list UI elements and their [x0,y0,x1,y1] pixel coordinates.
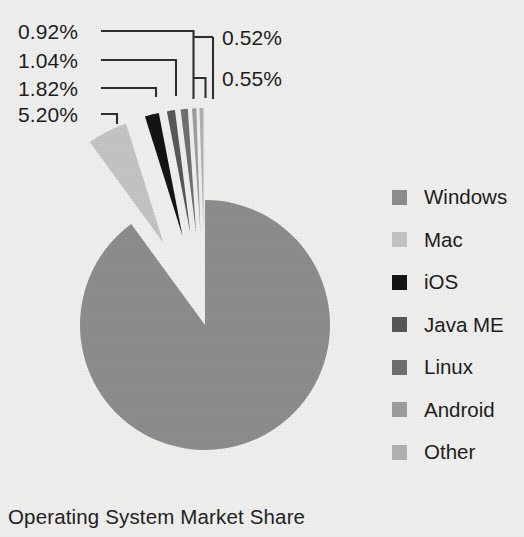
callout-labels-group: 0.92% 1.04% 1.82% 5.20% 0.52% 0.55% [18,20,282,126]
legend-item-java-me[interactable]: Java ME [392,304,520,347]
pie-slice-android[interactable] [192,108,200,233]
callout-label-0-52: 0.52% [222,26,282,49]
legend-swatch-windows [392,190,407,205]
legend-item-android[interactable]: Android [392,389,520,432]
legend-label-java-me: Java ME [424,315,504,336]
callout-label-0-55: 0.55% [222,67,282,90]
legend-swatch-java-me [392,317,407,332]
legend-swatch-linux [392,360,407,375]
legend-label-other: Other [424,442,475,463]
callout-label-0-92: 0.92% [18,20,78,43]
legend-swatch-android [392,402,407,417]
legend-label-ios: iOS [424,272,458,293]
pie-slice-other[interactable] [199,108,203,233]
legend-label-linux: Linux [424,357,473,378]
leader-line-0-55 [193,78,206,98]
legend-label-android: Android [424,400,495,421]
leader-line-1-04 [101,60,176,96]
leader-line-5-20 [101,114,117,124]
legend-swatch-other [392,445,407,460]
legend-item-ios[interactable]: iOS [392,261,520,304]
chart-legend: Windows Mac iOS Java ME Linux Android Ot… [392,176,520,474]
legend-label-windows: Windows [424,187,507,208]
legend-item-linux[interactable]: Linux [392,346,520,389]
legend-swatch-ios [392,275,407,290]
pie-slice-mac[interactable] [90,124,164,243]
callout-label-1-82: 1.82% [18,77,78,100]
leader-line-1-82 [101,88,156,97]
callout-label-1-04: 1.04% [18,49,78,72]
legend-item-mac[interactable]: Mac [392,219,520,262]
legend-swatch-mac [392,232,407,247]
pie-slices-group [80,108,330,450]
legend-item-windows[interactable]: Windows [392,176,520,219]
legend-item-other[interactable]: Other [392,431,520,474]
legend-label-mac: Mac [424,230,463,251]
pie-slice-windows[interactable] [80,200,330,450]
callout-label-5-20: 5.20% [18,103,78,126]
chart-title: Operating System Market Share [8,505,305,529]
